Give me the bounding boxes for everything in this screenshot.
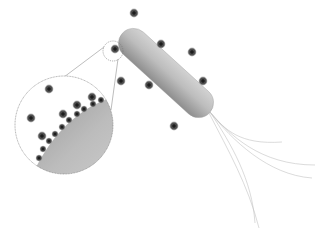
flagella <box>209 112 315 228</box>
surface-ion-icon <box>81 106 87 112</box>
positive-ion-icon <box>157 40 166 49</box>
surface-ion-icon <box>74 111 80 117</box>
positive-ion-icon <box>145 81 154 90</box>
positive-ion-icon <box>73 101 82 110</box>
surface-ion-icon <box>36 155 42 161</box>
surface-ion-icon <box>98 97 104 103</box>
positive-ion-icon <box>117 77 126 86</box>
positive-ion-icon <box>38 132 47 141</box>
surface-ion-icon <box>40 146 46 152</box>
surface-ion-icon <box>46 138 52 144</box>
positive-ion-icon <box>130 9 139 18</box>
positive-ion-icon <box>59 110 68 119</box>
bacterium-ion-diagram <box>0 0 324 231</box>
surface-ion-icon <box>90 101 96 107</box>
positive-ion-icon <box>199 77 208 86</box>
magnified-inset <box>15 76 130 190</box>
surface-ion-icon <box>66 117 72 123</box>
positive-ion-icon <box>111 45 120 54</box>
positive-ion-icon <box>27 114 36 123</box>
positive-ion-icon <box>45 85 54 94</box>
bacterium-cell <box>112 22 219 124</box>
positive-ion-icon <box>88 93 97 102</box>
surface-ion-icon <box>59 124 65 130</box>
positive-ion-icon <box>188 48 197 57</box>
positive-ion-icon <box>170 122 179 131</box>
surface-ion-icon <box>52 131 58 137</box>
